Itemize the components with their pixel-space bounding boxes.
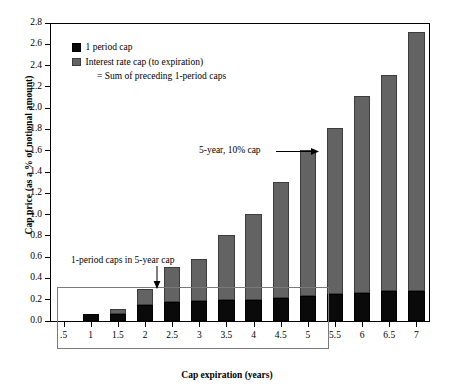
y-tick-label: 0.2 — [30, 293, 42, 306]
one-period-caps-box — [57, 287, 329, 349]
one-period-caps-arrow-icon — [150, 266, 164, 290]
y-tick-label: 2.2 — [30, 80, 42, 93]
y-tick-label: 1.4 — [30, 165, 42, 178]
x-axis-title: Cap expiration (years) — [0, 370, 454, 380]
x-tick-mark — [389, 321, 390, 327]
bar-segment-1-period-cap — [381, 291, 397, 321]
cap-price-bar-chart: Cap price (as a % of notional amount) 0.… — [0, 0, 454, 391]
bar-segment-1-period-cap — [408, 291, 424, 321]
bar-segment-interest-rate-cap — [300, 150, 316, 296]
y-tick-mark — [45, 299, 50, 300]
y-tick-label: 0.0 — [30, 314, 42, 327]
y-tick-label: 2.4 — [30, 59, 42, 72]
x-tick-mark — [416, 321, 417, 327]
y-tick-label: 1.0 — [30, 208, 42, 221]
bar-segment-interest-rate-cap — [273, 182, 289, 299]
table-row — [327, 128, 343, 321]
legend-swatch-grey-icon — [72, 58, 81, 67]
y-tick-label: 0.4 — [30, 271, 42, 284]
y-tick-mark — [45, 108, 50, 109]
legend-swatch-black-icon — [72, 43, 81, 52]
y-tick-label: 2.6 — [30, 37, 42, 50]
legend-item-interest-rate-cap: Interest rate cap (to expiration) — [72, 55, 226, 70]
y-tick-label: 2.0 — [30, 101, 42, 114]
table-row — [354, 96, 370, 321]
y-tick-label: 0.8 — [30, 229, 42, 242]
y-tick-mark — [45, 65, 50, 66]
y-tick-mark — [45, 44, 50, 45]
bar-segment-interest-rate-cap — [327, 128, 343, 293]
y-tick-mark — [45, 278, 50, 279]
bar-segment-1-period-cap — [354, 293, 370, 321]
y-tick-mark — [45, 193, 50, 194]
x-tick-mark — [335, 321, 336, 327]
y-tick-mark — [45, 86, 50, 87]
table-row — [408, 32, 424, 321]
y-tick-label: 0.6 — [30, 250, 42, 263]
y-tick-label: 1.8 — [30, 122, 42, 135]
bar-segment-interest-rate-cap — [354, 96, 370, 292]
bar-segment-1-period-cap — [327, 294, 343, 321]
table-row — [381, 75, 397, 321]
legend-label-1-period-cap: 1 period cap — [86, 40, 133, 55]
y-tick-mark — [45, 321, 50, 322]
five-year-cap-arrow-icon — [276, 145, 320, 158]
y-tick-label: 1.2 — [30, 186, 42, 199]
five-year-cap-label: 5-year, 10% cap — [199, 145, 261, 155]
y-tick-mark — [45, 172, 50, 173]
y-tick-label: 1.6 — [30, 144, 42, 157]
one-period-caps-label: 1-period caps in 5-year cap — [71, 255, 174, 265]
legend: 1 period cap Interest rate cap (to expir… — [72, 40, 226, 84]
x-tick-label: 6.5 — [375, 330, 403, 340]
y-tick-mark — [45, 214, 50, 215]
legend-item-1-period-cap: 1 period cap — [72, 40, 226, 55]
x-tick-mark — [362, 321, 363, 327]
x-tick-label: 6 — [348, 330, 376, 340]
legend-sub-label: = Sum of preceding 1-period caps — [97, 69, 226, 84]
y-tick-mark — [45, 23, 50, 24]
legend-label-interest-rate-cap: Interest rate cap (to expiration) — [86, 55, 204, 70]
y-tick-mark — [45, 129, 50, 130]
bar-segment-interest-rate-cap — [408, 32, 424, 291]
y-tick-mark — [45, 235, 50, 236]
y-tick-label: 2.8 — [30, 16, 42, 29]
y-tick-mark — [45, 257, 50, 258]
bar-segment-interest-rate-cap — [381, 75, 397, 291]
y-tick-mark — [45, 150, 50, 151]
x-tick-label: 7 — [402, 330, 430, 340]
